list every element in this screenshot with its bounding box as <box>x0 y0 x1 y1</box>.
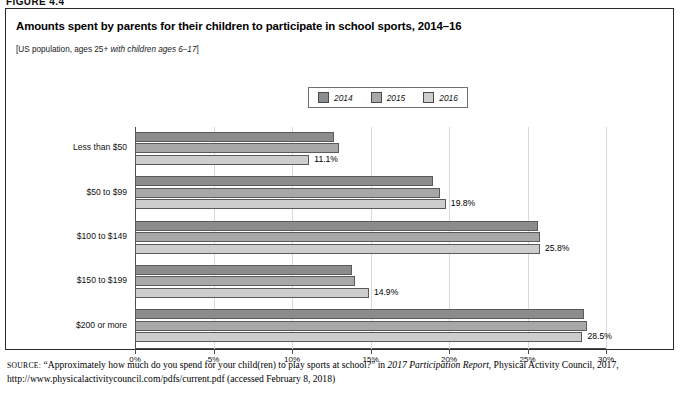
figure-label: FIGURE 4.4 <box>6 0 64 7</box>
chart-subtitle-close: ] <box>196 45 198 54</box>
x-axis-tick <box>528 349 529 354</box>
bar-2015-3 <box>135 276 355 286</box>
bar-2016-4 <box>135 332 582 342</box>
bar-value-label: 11.1% <box>314 154 338 164</box>
y-axis-category-label: $50 to $99 <box>86 187 127 197</box>
bar-value-label: 28.5% <box>587 331 611 341</box>
y-axis-category-label: $100 to $149 <box>77 231 127 241</box>
source-prefix: SOURCE: <box>7 361 41 370</box>
chart-legend: 201420152016 <box>308 87 468 108</box>
bar-2015-1 <box>135 188 440 198</box>
chart-subtitle: [US population, ages 25+ with children a… <box>16 45 199 54</box>
x-axis-tick <box>135 349 136 354</box>
x-axis-tick <box>292 349 293 354</box>
legend-label: 2015 <box>387 93 406 103</box>
chart-subtitle-italic: with children ages 6–17 <box>110 45 196 54</box>
bar-2016-0 <box>135 155 309 165</box>
source-title-italic: 2017 Participation Report <box>388 359 489 370</box>
bar-2014-1 <box>135 176 433 186</box>
legend-item-2014: 2014 <box>318 92 353 103</box>
y-axis-category-label: Less than $50 <box>73 142 127 152</box>
bar-group: Less than $5011.1% <box>135 132 606 165</box>
legend-item-2015: 2015 <box>371 92 406 103</box>
bar-group: $200 or more28.5% <box>135 309 606 342</box>
legend-swatch-2015 <box>371 92 382 103</box>
y-axis-category-label: $200 or more <box>76 320 127 330</box>
x-axis-tick <box>214 349 215 354</box>
chart-title: Amounts spent by parents for their child… <box>16 20 461 32</box>
bar-2015-0 <box>135 143 339 153</box>
chart-subtitle-plain: [US population, ages 25+ <box>16 45 110 54</box>
bar-2016-1 <box>135 199 446 209</box>
gridline <box>606 127 607 349</box>
legend-swatch-2016 <box>423 92 434 103</box>
bar-2014-3 <box>135 265 352 275</box>
legend-label: 2016 <box>439 93 458 103</box>
source-note: SOURCE: “Approximately how much do you s… <box>7 358 671 385</box>
bar-2014-4 <box>135 309 584 319</box>
bar-group: $150 to $19914.9% <box>135 265 606 298</box>
plot-area: 0%5%10%15%20%25%30%Less than $5011.1%$50… <box>135 127 606 349</box>
y-axis-category-label: $150 to $199 <box>77 275 127 285</box>
chart-panel: Amounts spent by parents for their child… <box>5 8 674 350</box>
bar-2014-2 <box>135 221 538 231</box>
bar-value-label: 19.8% <box>451 198 475 208</box>
x-axis-tick <box>449 349 450 354</box>
bar-2015-4 <box>135 321 587 331</box>
bar-value-label: 25.8% <box>545 243 569 253</box>
bar-2016-3 <box>135 288 369 298</box>
bar-group: $100 to $14925.8% <box>135 221 606 254</box>
x-axis-tick <box>606 349 607 354</box>
x-axis-tick <box>371 349 372 354</box>
legend-item-2016: 2016 <box>423 92 458 103</box>
bar-2016-2 <box>135 244 540 254</box>
source-text-a: “Approximately how much do you spend for… <box>41 359 387 370</box>
bar-group: $50 to $9919.8% <box>135 176 606 209</box>
bar-2014-0 <box>135 132 334 142</box>
legend-label: 2014 <box>334 93 353 103</box>
legend-swatch-2014 <box>318 92 329 103</box>
bar-2015-2 <box>135 232 540 242</box>
bar-value-label: 14.9% <box>374 287 398 297</box>
